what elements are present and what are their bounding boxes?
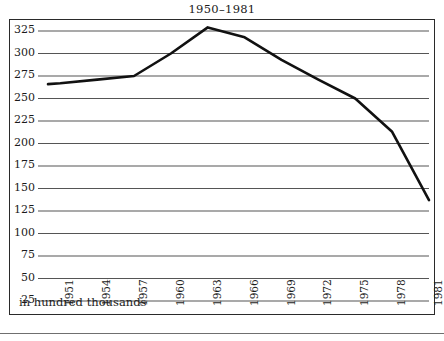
x-tick-label: 1960 (175, 279, 186, 306)
y-tick-label: 275 (11, 69, 35, 80)
y-tick-label: 150 (11, 182, 35, 193)
plot-area (9, 19, 435, 315)
x-tick-label: 1966 (249, 279, 260, 306)
y-tick-label: 225 (11, 114, 35, 125)
y-tick-label: 175 (11, 159, 35, 170)
y-tick-label: 75 (11, 249, 35, 260)
x-tick-label: 1972 (322, 279, 333, 306)
gridlines-group (38, 31, 429, 301)
y-tick-label: 100 (11, 227, 35, 238)
x-tick-label: 1975 (359, 279, 370, 306)
bottom-rule (0, 333, 444, 334)
x-tick-label: 1978 (396, 279, 407, 306)
y-tick-label: 125 (11, 204, 35, 215)
axis-caption: in hundred thousands (19, 295, 146, 309)
y-tick-label: 300 (11, 47, 35, 58)
y-tick-label: 325 (11, 24, 35, 35)
chart-figure: 1950–1981 255075100125150175200225250275… (0, 0, 444, 341)
chart-title: 1950–1981 (0, 2, 444, 16)
x-tick-label: 1981 (433, 279, 444, 306)
y-tick-label: 50 (11, 272, 35, 283)
x-tick-label: 1969 (286, 279, 297, 306)
y-tick-label: 200 (11, 137, 35, 148)
plot-svg (10, 20, 433, 313)
x-tick-label: 1963 (212, 279, 223, 306)
y-tick-label: 250 (11, 92, 35, 103)
